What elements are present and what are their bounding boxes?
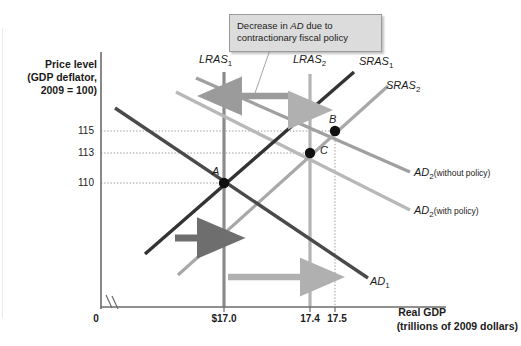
point-label-c: C — [320, 144, 328, 157]
x-tick-17-0: $17.0 — [198, 313, 250, 325]
y-tick-115: 115 — [62, 125, 94, 137]
curve-label-sras1: SRAS1 — [359, 55, 393, 70]
x-tick-0: 0 — [85, 313, 107, 325]
curve-ad2-without-policy — [196, 78, 410, 172]
curve-label-lras1: LRAS1 — [199, 53, 232, 68]
point-a-marker[interactable] — [219, 178, 229, 188]
guide-lines — [101, 131, 335, 307]
callout-box: Decrease in AD due to contractionary fis… — [229, 14, 382, 52]
curve-label-ad2-with-policy: AD2(with policy) — [414, 204, 479, 219]
curve-sras2 — [178, 86, 388, 275]
curve-label-lras2: LRAS2 — [293, 53, 326, 68]
callout-text-em: AD — [290, 20, 303, 31]
curve-label-sras2: SRAS2 — [386, 79, 420, 94]
callout-text-line2: contractionary fiscal policy — [237, 32, 348, 43]
figure-container: Decrease in AD due to contractionary fis… — [0, 0, 521, 346]
y-axis-title-line2: (GDP deflator, — [6, 71, 97, 83]
point-label-b: B — [329, 113, 336, 126]
curve-label-ad1: AD1 — [370, 275, 390, 290]
curve-sras1 — [145, 72, 354, 254]
y-tick-110: 110 — [62, 177, 94, 189]
y-axis-title-line1: Price level — [14, 58, 97, 70]
y-tick-113: 113 — [62, 147, 94, 159]
curve-ad1 — [115, 108, 368, 278]
callout-text-part2: due to — [304, 20, 333, 31]
x-axis-title-line1: Real GDP — [336, 306, 446, 318]
point-label-a: A — [212, 165, 219, 178]
y-axis-title-line3: 2009 = 100) — [6, 84, 97, 96]
x-axis-title-line2: (trillions of 2009 dollars) — [336, 320, 518, 332]
point-c-marker[interactable] — [305, 148, 315, 158]
curve-label-ad2-without-policy: AD2(without policy) — [414, 166, 490, 181]
point-b-marker[interactable] — [330, 126, 340, 136]
callout-text-part1: Decrease in — [237, 20, 290, 31]
